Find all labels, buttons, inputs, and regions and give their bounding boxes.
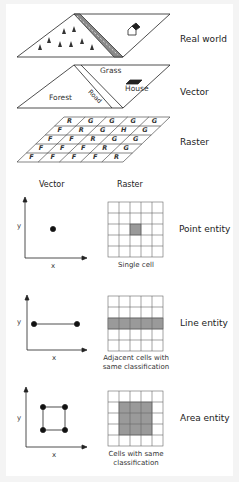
area-entity-label: Area entity	[180, 413, 230, 423]
raster-cell: R	[114, 153, 119, 161]
raster-cell: R	[91, 135, 96, 143]
raster-cell: H	[121, 126, 126, 134]
raster-column-header: Raster	[117, 180, 143, 189]
raster-cell: G	[109, 117, 114, 125]
raster-cell: F	[81, 144, 85, 152]
raster-cell: F	[58, 126, 62, 134]
raster-cell: F	[69, 135, 73, 143]
raster-cell: R	[102, 144, 107, 152]
x-axis-label: x	[52, 451, 56, 459]
area-entity-raster	[108, 391, 163, 446]
raster-cell: F	[29, 153, 33, 161]
y-axis-label: y	[17, 318, 21, 326]
raster-cell: R	[79, 126, 84, 134]
line-entity-vector	[25, 295, 87, 352]
area-entity-vector	[24, 387, 87, 449]
x-axis-label: x	[52, 354, 56, 362]
y-axis-label: y	[17, 222, 21, 230]
raster-cell: G	[131, 117, 136, 125]
raster-cell: F	[48, 135, 52, 143]
house-label: House	[125, 84, 149, 93]
y-axis-label: y	[17, 414, 21, 422]
x-axis-label: x	[51, 262, 55, 270]
line-caption: Adjacent cells with same classification	[94, 354, 178, 372]
line-entity-label: Line entity	[180, 318, 228, 328]
raster-cell: G	[142, 126, 147, 134]
grass-label: Grass	[100, 66, 121, 75]
raster-cell: F	[39, 144, 43, 152]
line-caption-line2: same classification	[94, 363, 178, 372]
raster-cell: R	[67, 117, 72, 125]
forest-label: Forest	[49, 93, 72, 102]
area-caption: Cells with same classification	[98, 450, 174, 468]
line-entity-raster	[108, 296, 163, 351]
real-world-layer	[17, 14, 170, 57]
raster-cell: F	[93, 153, 97, 161]
gis-data-model-figure: Real world Vector Raster Grass House For…	[6, 4, 233, 476]
raster-label: Raster	[180, 137, 209, 147]
vector-column-header: Vector	[39, 180, 65, 189]
area-caption-line2: classification	[98, 459, 174, 468]
vector-label: Vector	[180, 87, 209, 97]
raster-cell: G	[112, 135, 117, 143]
point-caption: Single cell	[98, 261, 174, 270]
point-entity-vector	[23, 197, 87, 260]
raster-cell: F	[72, 153, 76, 161]
real-world-label: Real world	[180, 34, 227, 44]
raster-cell: G	[100, 126, 105, 134]
raster-cell: F	[60, 144, 64, 152]
point-entity-label: Point entity	[179, 224, 230, 234]
area-caption-line1: Cells with same	[98, 450, 174, 459]
raster-cell: G	[152, 117, 157, 125]
raster-cell: G	[133, 135, 138, 143]
raster-cell: G	[124, 144, 129, 152]
raster-cell: G	[88, 117, 93, 125]
point-entity-raster	[108, 202, 163, 257]
line-caption-line1: Adjacent cells with	[94, 354, 178, 363]
raster-cell: F	[51, 153, 55, 161]
